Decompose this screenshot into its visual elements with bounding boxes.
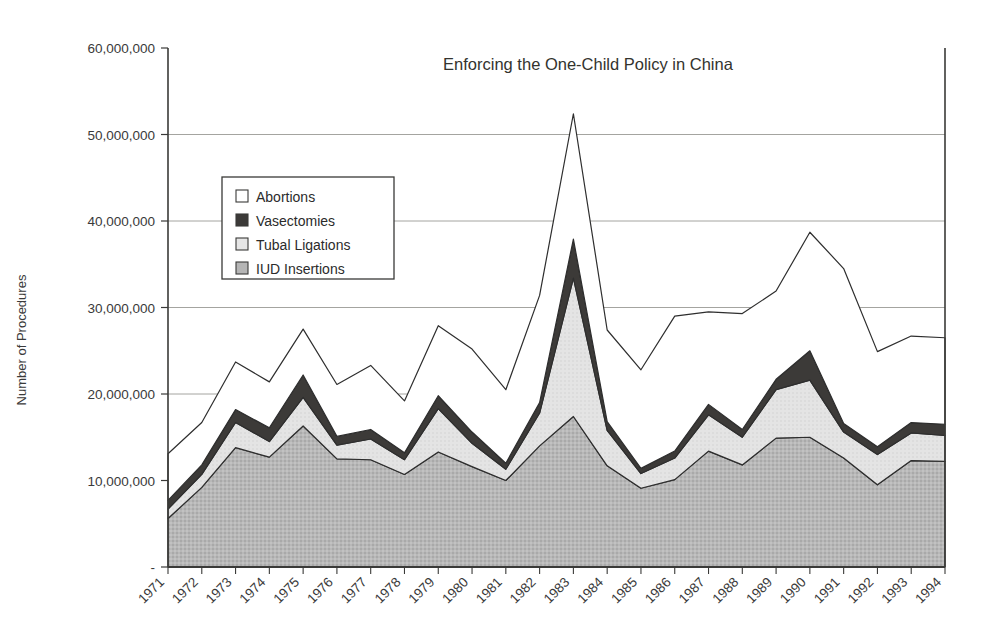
y-tick-label: 30,000,000 — [87, 301, 155, 316]
y-tick-label: - — [151, 560, 156, 575]
y-tick-label: 10,000,000 — [87, 474, 155, 489]
page-title: Enforcing the One-Child Policy in China — [443, 55, 734, 73]
stacked-area-chart: -10,000,00020,000,00030,000,00040,000,00… — [0, 0, 988, 642]
legend-swatch-abortions — [236, 190, 248, 202]
legend-label-abortions: Abortions — [256, 189, 315, 205]
y-tick-label: 60,000,000 — [87, 41, 155, 56]
legend-swatch-vasectomies — [236, 214, 248, 226]
legend-label-vasectomies: Vasectomies — [256, 213, 335, 229]
legend-label-iud-insertions: IUD Insertions — [256, 261, 345, 277]
chart-legend: AbortionsVasectomiesTubal LigationsIUD I… — [222, 177, 394, 279]
legend-label-tubal-ligations: Tubal Ligations — [256, 237, 350, 253]
y-tick-label: 50,000,000 — [87, 128, 155, 143]
y-tick-label: 20,000,000 — [87, 387, 155, 402]
legend-swatch-iud-insertions — [236, 262, 248, 274]
legend-swatch-tubal-ligations — [236, 238, 248, 250]
y-axis-title: Number of Procedures — [14, 274, 29, 405]
y-tick-label: 40,000,000 — [87, 214, 155, 229]
chart-figure: -10,000,00020,000,00030,000,00040,000,00… — [0, 0, 988, 642]
